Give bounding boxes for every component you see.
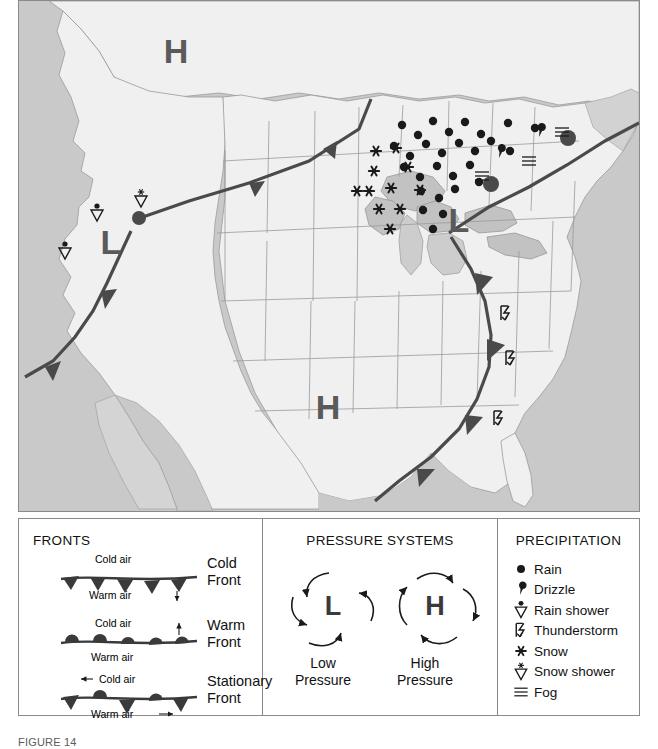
drizzle-comma-icon xyxy=(519,581,527,594)
precip-legend-label: Drizzle xyxy=(534,582,575,597)
rain-dot-icon xyxy=(449,172,457,180)
rain-dot-icon xyxy=(455,139,463,147)
low-pressure-caption: Low Pressure xyxy=(275,655,371,689)
precip-legend-item: Rain shower xyxy=(508,600,618,621)
precip-legend-item: Snow xyxy=(508,641,618,662)
low-pressure-diagram: L xyxy=(285,563,381,651)
rain-dot-icon xyxy=(422,140,430,148)
rain-dot-icon xyxy=(471,147,479,155)
rain-dot-icon xyxy=(433,162,441,170)
cold-front-diagram: Cold air Warm air xyxy=(55,549,203,603)
rain-dot-icon xyxy=(406,152,414,160)
figure-caption: FIGURE 14 xyxy=(18,736,77,748)
map-graphic: HLLH xyxy=(19,1,639,511)
stationary-front-diagram: Cold air Warm air xyxy=(55,667,203,721)
thunderstorm-icon xyxy=(516,623,524,636)
warm-front-label-line1: Warm xyxy=(207,617,245,634)
weather-map: HLLH xyxy=(18,0,640,512)
rain-dot-icon xyxy=(517,565,525,573)
map-legend: FRONTS Cold air Warm air xyxy=(18,518,640,716)
rain-dot-icon xyxy=(429,117,437,125)
cold-front-label-line2: Front xyxy=(207,572,241,589)
rain-dot-icon xyxy=(508,559,534,579)
high-pressure-caption: High Pressure xyxy=(377,655,473,689)
stationary-front-above-label: Cold air xyxy=(99,673,136,685)
pressure-center-high-south-central: H xyxy=(316,388,341,426)
precip-legend-label: Thunderstorm xyxy=(534,623,618,638)
rain-dot-icon xyxy=(461,118,469,126)
precip-legend-label: Rain xyxy=(534,562,562,577)
weather-map-figure: HLLH FRONTS Cold air xyxy=(0,0,658,749)
precip-legend-item: Fog xyxy=(508,682,618,703)
rain-dot-icon xyxy=(487,137,495,145)
high-pressure-symbol: H xyxy=(425,591,445,621)
rain-dot-icon xyxy=(419,206,427,214)
legend-row-cold-front: Cold air Warm air Cold Front xyxy=(19,549,262,603)
fog-lines-icon xyxy=(508,682,534,702)
low-pressure-caption-line1: Low xyxy=(275,655,371,672)
cold-front-line xyxy=(61,577,197,579)
rain-dot-icon xyxy=(416,173,424,181)
precip-legend-label: Snow shower xyxy=(534,664,615,679)
precip-legend-label: Snow xyxy=(534,644,568,659)
high-pressure-diagram: H xyxy=(387,563,483,651)
drizzle-comma-icon xyxy=(508,580,534,600)
high-pressure-caption-line1: High xyxy=(377,655,473,672)
precip-legend-item: Rain xyxy=(508,559,618,580)
high-pressure-caption-line2: Pressure xyxy=(377,672,473,689)
rain-dot-icon xyxy=(429,225,437,233)
legend-pressure-panel: PRESSURE SYSTEMS L Low Pressure H xyxy=(263,519,498,715)
rain-dot-icon xyxy=(531,124,539,132)
precip-legend-label: Fog xyxy=(534,685,557,700)
legend-fronts-title: FRONTS xyxy=(33,533,90,548)
rain-dot-icon xyxy=(445,128,453,136)
legend-warm-front-label: Warm Front xyxy=(207,617,245,650)
rain-shower-icon xyxy=(508,600,534,620)
legend-precipitation-title: PRECIPITATION xyxy=(498,533,639,548)
pressure-center-low-great-lakes: L xyxy=(449,201,470,239)
rain-dot-icon xyxy=(435,194,443,202)
occluded-node-west xyxy=(132,211,146,225)
rain-dot-icon xyxy=(475,178,483,186)
legend-pressure-title: PRESSURE SYSTEMS xyxy=(263,533,497,548)
pressure-center-high-northwest: H xyxy=(164,32,189,70)
rain-dot-icon xyxy=(506,147,514,155)
cold-front-label-line1: Cold xyxy=(207,555,241,572)
low-pressure-caption-line2: Pressure xyxy=(275,672,371,689)
legend-fronts-panel: FRONTS Cold air Warm air xyxy=(19,519,263,715)
fog-lines-icon xyxy=(514,688,527,696)
low-pressure-symbol: L xyxy=(325,591,342,621)
cold-front-above-label: Cold air xyxy=(95,553,132,565)
precip-legend-item: Drizzle xyxy=(508,580,618,601)
rain-dot-icon xyxy=(451,185,459,193)
snow-asterisk-icon xyxy=(508,641,534,661)
precip-legend-item: Thunderstorm xyxy=(508,621,618,642)
precip-legend-item: Snow shower xyxy=(508,662,618,683)
rain-dot-icon xyxy=(398,121,406,129)
thunderstorm-icon xyxy=(508,621,534,641)
rain-dot-icon xyxy=(504,119,512,127)
rain-dot-icon xyxy=(466,161,474,169)
legend-row-warm-front: Cold air Warm air Warm Front xyxy=(19,611,262,665)
legend-cold-front-label: Cold Front xyxy=(207,555,241,588)
legend-precipitation-panel: PRECIPITATION RainDrizzleRain showerThun… xyxy=(498,519,639,715)
rain-dot-icon xyxy=(438,149,446,157)
snow-shower-icon xyxy=(508,662,534,682)
rain-dot-icon xyxy=(414,131,422,139)
rain-shower-icon xyxy=(515,601,526,618)
precipitation-legend-list: RainDrizzleRain showerThunderstormSnowSn… xyxy=(508,559,618,703)
warm-front-diagram: Cold air Warm air xyxy=(55,611,203,665)
rain-dot-icon xyxy=(439,210,447,218)
snow-asterisk-icon xyxy=(516,647,526,656)
snow-shower-icon xyxy=(515,662,526,679)
rain-dot-icon xyxy=(477,130,485,138)
warm-front-label-line2: Front xyxy=(207,634,245,651)
pressure-center-low-great-basin: L xyxy=(101,223,122,261)
cold-front-below-label: Warm air xyxy=(89,589,132,601)
stationary-front-below-label: Warm air xyxy=(91,708,134,720)
precip-legend-label: Rain shower xyxy=(534,603,609,618)
legend-row-stationary-front: Cold air Warm air Stationary Fro xyxy=(19,667,262,721)
warm-front-above-label: Cold air xyxy=(95,617,132,629)
warm-front-below-label: Warm air xyxy=(91,651,134,663)
